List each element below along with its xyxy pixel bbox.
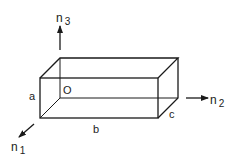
edge-b-label: b: [93, 123, 99, 135]
axis-n3-label: n3: [56, 11, 71, 27]
axis-n1-arrow: [19, 124, 34, 137]
edge-c-label: c: [169, 108, 175, 120]
edge-a-label: a: [29, 90, 36, 102]
origin-label: O: [63, 84, 72, 96]
right-face-edges: [158, 58, 178, 118]
box-diagram: n3 n2 n1 O a b c: [0, 0, 236, 164]
back-edge-depth: [40, 98, 60, 118]
axis-n2-label: n2: [210, 93, 225, 109]
box: [40, 58, 178, 118]
axis-n1-label: n1: [11, 140, 26, 156]
top-face-edges: [40, 58, 178, 78]
axes: [19, 26, 208, 137]
